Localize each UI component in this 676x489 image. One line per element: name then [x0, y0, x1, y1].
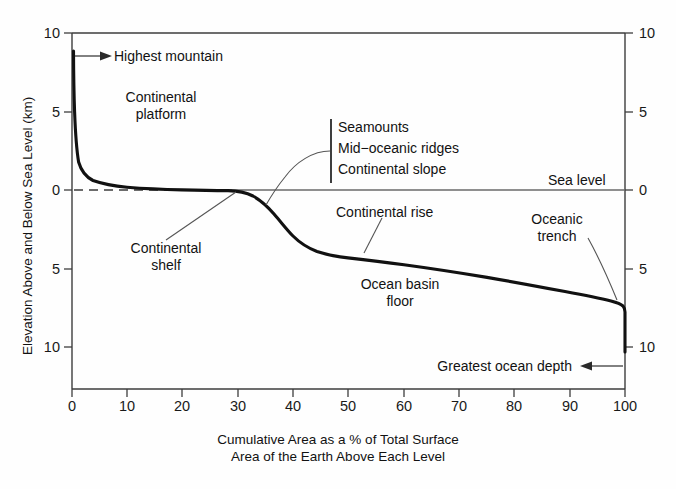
- greatest-ocean-depth-arrowhead: [580, 362, 592, 371]
- annotation-ocean-basin-floor-line2: floor: [330, 293, 470, 310]
- x-tick-label-100: 100: [605, 398, 645, 415]
- y-tick-label-left-10u: 10: [18, 25, 60, 42]
- annotation-seamounts: Seamounts: [338, 119, 409, 136]
- x-axis-title-line2: Area of the Earth Above Each Level: [88, 449, 588, 465]
- annotation-mid-oceanic-ridges: Mid−oceanic ridges: [338, 140, 459, 157]
- x-tick-label-60: 60: [384, 398, 424, 415]
- annotation-ocean-basin-floor-line1: Ocean basin: [330, 276, 470, 293]
- hypsographic-curve-figure: 0 10 20 30 40 50 60 70 80 90 100 10 5 0 …: [0, 0, 676, 489]
- y-tick-label-right-0: 0: [639, 182, 647, 199]
- annotation-oceanic-trench-line1: Oceanic: [512, 211, 602, 228]
- annotation-greatest-ocean-depth: Greatest ocean depth: [402, 358, 572, 375]
- oceanic-trench-leader: [588, 238, 617, 300]
- annotation-highest-mountain: Highest mountain: [114, 48, 223, 65]
- annotation-continental-slope: Continental slope: [338, 161, 446, 178]
- x-tick-label-0: 0: [52, 398, 92, 415]
- annotation-oceanic-trench-line2: trench: [512, 228, 602, 245]
- x-tick-label-10: 10: [107, 398, 147, 415]
- x-tick-label-30: 30: [218, 398, 258, 415]
- highest-mountain-arrowhead: [100, 52, 112, 61]
- y-tick-label-right-10u: 10: [639, 25, 655, 42]
- annotation-sea-level: Sea level: [548, 172, 606, 189]
- x-tick-label-50: 50: [328, 398, 368, 415]
- x-tick-label-40: 40: [273, 398, 313, 415]
- annotation-continental-shelf-line1: Continental: [101, 240, 231, 257]
- x-tick-label-80: 80: [494, 398, 534, 415]
- y-tick-marks-right: [625, 33, 633, 347]
- x-axis-title-line1: Cumulative Area as a % of Total Surface: [88, 432, 588, 448]
- y-tick-label-right-10d: 10: [639, 339, 655, 356]
- x-tick-label-20: 20: [162, 398, 202, 415]
- x-tick-marks: [72, 389, 625, 397]
- x-tick-label-90: 90: [550, 398, 590, 415]
- annotation-continental-rise: Continental rise: [336, 204, 433, 221]
- annotation-continental-platform-line2: platform: [96, 106, 226, 123]
- annotation-continental-platform-line1: Continental: [96, 89, 226, 106]
- y-tick-label-right-5u: 5: [639, 104, 647, 121]
- y-tick-marks-left: [64, 33, 72, 347]
- x-tick-label-70: 70: [439, 398, 479, 415]
- seamounts-group-leader: [266, 151, 330, 205]
- continental-rise-leader: [364, 218, 382, 253]
- y-axis-title: Elevation Above and Below Sea Level (km): [20, 97, 35, 355]
- y-tick-label-right-5d: 5: [639, 261, 647, 278]
- continental-shelf-leader: [166, 192, 236, 240]
- annotation-continental-shelf-line2: shelf: [101, 257, 231, 274]
